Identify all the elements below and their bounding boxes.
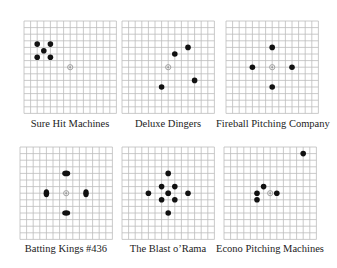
- hit-dot: [41, 48, 47, 54]
- hit-dot: [159, 84, 165, 90]
- bullseye-center: [65, 192, 67, 194]
- panel-batting-kings: Batting Kings #436: [10, 126, 122, 260]
- hit-dot: [62, 171, 70, 177]
- target-grid: [112, 0, 224, 120]
- hit-dot: [185, 45, 191, 51]
- hit-dot: [289, 64, 295, 70]
- hit-dot: [269, 84, 275, 90]
- hit-dot: [192, 78, 198, 84]
- target-grid: [14, 0, 126, 120]
- target-grid: [112, 126, 224, 246]
- hit-dot: [250, 64, 256, 70]
- hit-dot: [146, 190, 152, 196]
- panel-sure-hit: Sure Hit Machines: [14, 0, 126, 134]
- hit-dot: [165, 210, 171, 216]
- hit-dot: [185, 190, 191, 196]
- hit-dot: [254, 197, 260, 203]
- hit-dot: [159, 184, 165, 190]
- hit-dot: [34, 55, 40, 61]
- hit-dot: [269, 45, 275, 51]
- target-grid: [216, 0, 328, 120]
- bullseye-center: [69, 66, 71, 68]
- panel-deluxe-dingers: Deluxe Dingers: [112, 0, 224, 134]
- hit-dot: [172, 51, 178, 57]
- bullseye-center: [167, 66, 169, 68]
- hit-dot: [300, 151, 306, 157]
- panel-blast-o-rama: The Blast o’Rama: [112, 126, 224, 260]
- panel-label: Batting Kings #436: [10, 243, 122, 254]
- hit-dot: [172, 197, 178, 203]
- hit-dot: [62, 210, 70, 216]
- panel-fireball: Fireball Pitching Company: [216, 0, 328, 134]
- hit-dot: [44, 189, 50, 197]
- panel-label: Econo Pitching Machines: [214, 243, 326, 254]
- hit-dot: [48, 55, 54, 61]
- bullseye-center: [271, 66, 273, 68]
- hit-dot: [34, 41, 40, 47]
- hit-dot: [254, 190, 260, 196]
- bullseye-center: [269, 192, 271, 194]
- hit-dot: [261, 184, 267, 190]
- hit-dot: [165, 190, 171, 196]
- hit-dot: [172, 184, 178, 190]
- hit-dot: [165, 171, 171, 177]
- hit-dot: [48, 41, 54, 47]
- panel-label: The Blast o’Rama: [112, 243, 224, 254]
- target-grid: [214, 126, 326, 246]
- hit-dot: [274, 190, 280, 196]
- hit-dot: [83, 189, 89, 197]
- hit-dot: [159, 197, 165, 203]
- panel-econo: Econo Pitching Machines: [214, 126, 326, 260]
- target-grid: [10, 126, 122, 246]
